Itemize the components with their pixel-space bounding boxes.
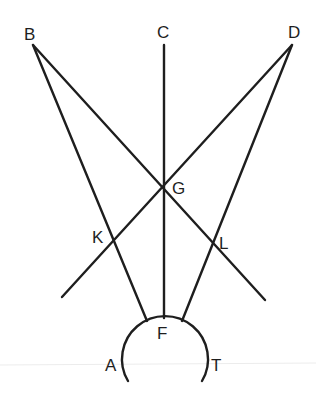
point-label-T: T bbox=[211, 356, 221, 375]
point-label-A: A bbox=[105, 356, 117, 375]
line-group bbox=[33, 45, 292, 321]
point-label-K: K bbox=[92, 228, 104, 247]
point-label-C: C bbox=[157, 23, 169, 42]
faint-scan-line bbox=[0, 363, 316, 365]
point-label-F: F bbox=[157, 324, 167, 343]
label-group: BCDGKLFAT bbox=[24, 23, 300, 375]
line-B-F bbox=[33, 45, 147, 321]
point-label-L: L bbox=[219, 234, 228, 253]
point-label-B: B bbox=[24, 25, 35, 44]
line-B-G-L bbox=[33, 45, 265, 300]
line-D-G-K bbox=[62, 45, 292, 297]
geometry-diagram: BCDGKLFAT bbox=[0, 0, 316, 403]
line-D-F bbox=[182, 45, 292, 321]
point-label-G: G bbox=[172, 179, 185, 198]
point-label-D: D bbox=[288, 23, 300, 42]
